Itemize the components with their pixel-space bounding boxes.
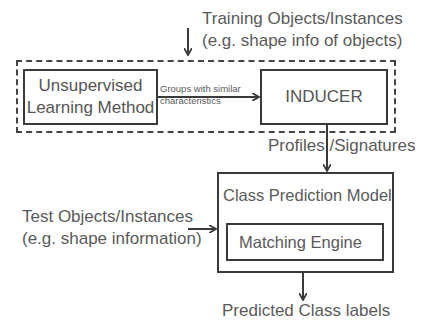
class-prediction-label: Class Prediction Model <box>223 186 392 205</box>
profiles-edge-label: Profiles /Signatures <box>268 136 415 156</box>
test-input-label: Test Objects/Instances (e.g. shape infor… <box>22 206 202 250</box>
groups-edge-label: Groups with similar characteristics <box>160 83 241 107</box>
matching-engine-box: Matching Engine <box>226 223 384 261</box>
training-input-label: Training Objects/Instances (e.g. shape i… <box>202 8 403 52</box>
test-input-line1: Test Objects/Instances <box>22 206 202 228</box>
groups-edge-line2: characteristics <box>160 95 241 107</box>
groups-edge-line1: Groups with similar <box>160 83 241 95</box>
test-input-line2: (e.g. shape information) <box>22 228 202 250</box>
unsupervised-line2: Learning Method <box>27 97 155 119</box>
unsupervised-line1: Unsupervised <box>39 75 143 97</box>
matching-engine-label: Matching Engine <box>239 233 362 252</box>
training-input-line1: Training Objects/Instances <box>202 8 403 30</box>
inducer-label: INDUCER <box>285 87 362 107</box>
training-input-line2: (e.g. shape info of objects) <box>202 30 403 52</box>
unsupervised-learning-box: Unsupervised Learning Method <box>23 69 158 125</box>
inducer-box: INDUCER <box>260 69 388 125</box>
predicted-class-labels: Predicted Class labels <box>222 301 390 321</box>
